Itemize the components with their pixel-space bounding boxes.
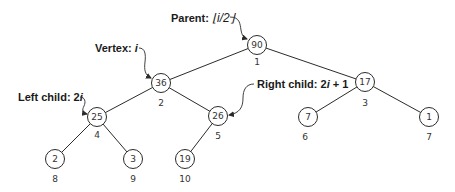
callout-parent: Parent: ⌊i/2⌋ — [171, 11, 247, 39]
tree-node: 90 1 — [248, 36, 267, 68]
tree-node: 25 4 — [88, 108, 107, 141]
edge-1-2 — [161, 45, 257, 83]
callout-right-child: Right child: 2i + 1 — [229, 78, 348, 115]
node-index: 10 — [179, 174, 191, 184]
tree-node: 26 5 — [209, 107, 228, 142]
node-index: 7 — [426, 132, 432, 142]
tree-nodes: 90 1 36 2 17 3 25 4 26 5 7 6 — [46, 36, 439, 185]
callout-vertex-prefix: Vertex: — [95, 42, 135, 54]
edge-1-3 — [257, 45, 365, 82]
node-value: 2 — [52, 154, 58, 164]
callout-parent-prefix: Parent: — [171, 12, 212, 24]
node-value: 1 — [426, 112, 432, 122]
node-index: 8 — [52, 174, 58, 184]
node-value: 17 — [359, 77, 370, 87]
node-value: 26 — [212, 111, 224, 121]
arrow-to-vertex — [139, 48, 151, 78]
callout-right-suffix: + 1 — [330, 78, 349, 90]
svg-text:Right child: 2i + 1: Right child: 2i + 1 — [257, 78, 348, 90]
node-value: 36 — [155, 78, 167, 88]
node-index: 5 — [215, 131, 221, 141]
tree-node: 3 9 — [124, 150, 143, 185]
tree-node: 2 8 — [46, 150, 65, 185]
node-index: 3 — [362, 98, 368, 108]
svg-text:Left child: 2i: Left child: 2i — [18, 91, 84, 103]
callout-left-prefix: Left child: 2 — [18, 91, 80, 103]
edge-2-4 — [97, 83, 161, 117]
callout-vertex: Vertex: i — [95, 42, 151, 78]
node-value: 90 — [251, 40, 263, 50]
node-index: 2 — [158, 98, 164, 108]
tree-node: 36 2 — [152, 74, 171, 109]
node-index: 6 — [302, 132, 308, 142]
heap-diagram: 90 1 36 2 17 3 25 4 26 5 7 6 — [0, 0, 455, 192]
tree-node: 7 6 — [299, 108, 318, 143]
svg-text:Parent: ⌊i/2⌋: Parent: ⌊i/2⌋ — [171, 11, 236, 25]
node-value: 3 — [130, 154, 136, 164]
callout-left-child: Left child: 2i — [18, 91, 87, 114]
node-index: 9 — [130, 174, 136, 184]
callout-right-prefix: Right child: 2 — [257, 78, 327, 90]
callout-parent-formula: ⌊i/2⌋ — [212, 11, 236, 25]
callout-vertex-formula: i — [135, 42, 139, 54]
node-index: 4 — [94, 130, 100, 140]
tree-node: 19 10 — [176, 150, 195, 185]
node-value: 7 — [305, 112, 311, 122]
node-value: 25 — [91, 112, 102, 122]
edge-3-7 — [365, 82, 429, 117]
tree-node: 17 3 — [356, 73, 375, 109]
tree-edges — [55, 45, 429, 159]
tree-node: 1 7 — [420, 108, 439, 143]
svg-text:Vertex: i: Vertex: i — [95, 42, 139, 54]
arrow-to-right-child — [229, 84, 254, 115]
node-index: 1 — [254, 57, 260, 67]
node-value: 19 — [179, 154, 191, 164]
